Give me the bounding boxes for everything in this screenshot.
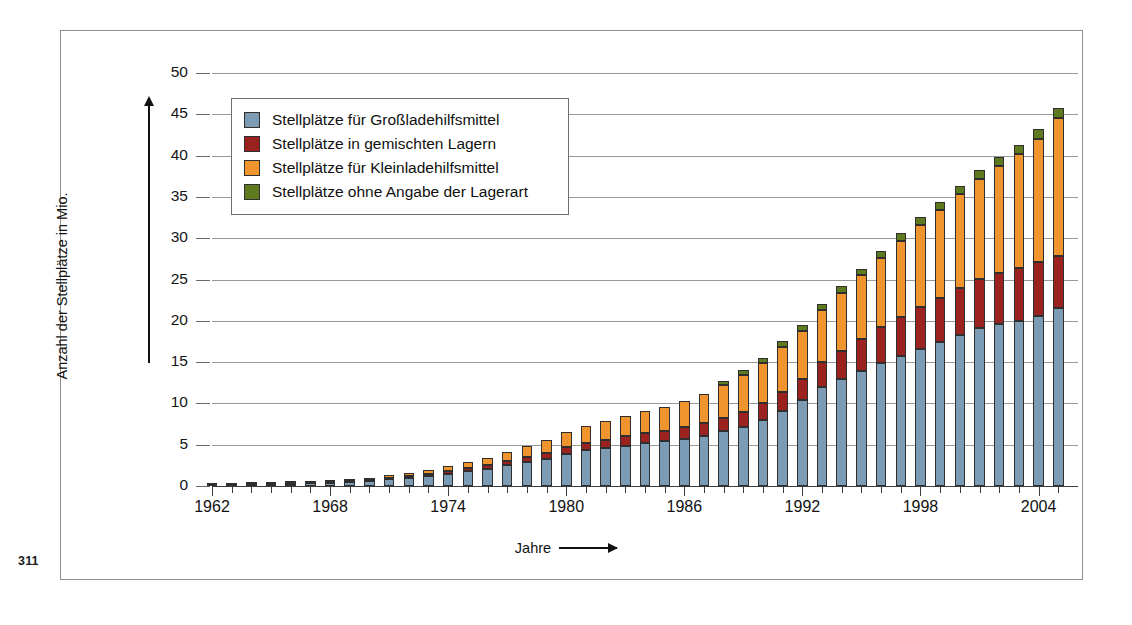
bar-1978[interactable] (522, 446, 533, 486)
bar-1980[interactable] (561, 431, 572, 486)
x-tick-mark (547, 486, 548, 493)
bar-1983[interactable] (620, 416, 631, 486)
bar-2002[interactable] (994, 157, 1005, 486)
bar-segment (541, 440, 552, 453)
x-tick-label: 1980 (531, 498, 601, 516)
bar-1989[interactable] (738, 370, 749, 486)
bar-segment (974, 179, 985, 279)
x-tick-mark (625, 486, 626, 493)
bar-1982[interactable] (600, 421, 611, 486)
bar-1972[interactable] (404, 473, 415, 486)
legend-item[interactable]: Stellplätze für Kleinladehilfsmittel (244, 156, 556, 180)
x-tick-label: 1992 (767, 498, 837, 516)
bar-segment (1053, 118, 1064, 255)
x-tick-mark (822, 486, 823, 493)
bar-segment (443, 474, 454, 486)
legend-item[interactable]: Stellplätze ohne Angabe der Lagerart (244, 180, 556, 204)
bar-segment (246, 482, 257, 484)
bar-segment (777, 347, 788, 392)
bar-1993[interactable] (817, 304, 828, 486)
bar-segment (679, 439, 690, 486)
y-tick-label: 50 (154, 63, 188, 81)
bar-1985[interactable] (659, 407, 670, 486)
bar-segment (1033, 129, 1044, 139)
bar-segment (404, 478, 415, 486)
bar-segment (935, 210, 946, 298)
bar-1975[interactable] (463, 462, 474, 486)
bar-segment (876, 363, 887, 486)
bar-segment (463, 471, 474, 486)
bar-2000[interactable] (955, 186, 966, 486)
bar-segment (797, 331, 808, 379)
bar-1977[interactable] (502, 452, 513, 486)
bar-1991[interactable] (777, 341, 788, 486)
legend-swatch-icon (244, 184, 260, 200)
bar-segment (738, 370, 749, 375)
bar-1987[interactable] (699, 394, 710, 487)
bar-1992[interactable] (797, 325, 808, 486)
x-tick-mark (901, 486, 902, 493)
bar-segment (541, 459, 552, 486)
bar-segment (620, 416, 631, 437)
y-tick-mark (196, 73, 210, 74)
y-tick-label: 5 (154, 435, 188, 453)
legend-item-label: Stellplätze für Großladehilfsmittel (272, 111, 499, 129)
bar-1998[interactable] (915, 217, 926, 486)
bar-1999[interactable] (935, 202, 946, 486)
bar-1973[interactable] (423, 469, 434, 486)
bar-segment (640, 411, 651, 433)
bar-segment (974, 328, 985, 486)
bar-1996[interactable] (876, 251, 887, 486)
bar-segment (699, 394, 710, 424)
x-tick-mark (507, 486, 508, 493)
bar-1976[interactable] (482, 458, 493, 486)
y-tick-label: 10 (154, 393, 188, 411)
bar-segment (404, 473, 415, 476)
bar-segment (777, 341, 788, 347)
bar-segment (364, 478, 375, 480)
bar-segment (1014, 145, 1025, 154)
x-tick-mark (960, 486, 961, 493)
bar-segment (502, 452, 513, 461)
y-tick-label: 35 (154, 187, 188, 205)
bar-segment (482, 458, 493, 465)
bar-segment (974, 279, 985, 329)
bar-segment (659, 407, 670, 431)
bar-1997[interactable] (896, 233, 907, 486)
bar-1979[interactable] (541, 440, 552, 486)
bar-2001[interactable] (974, 170, 985, 486)
bar-2004[interactable] (1033, 129, 1044, 486)
y-tick-mark (196, 403, 210, 404)
bar-segment (935, 342, 946, 486)
bar-segment (896, 233, 907, 240)
bar-1981[interactable] (581, 426, 592, 486)
bar-1994[interactable] (836, 286, 847, 486)
bar-segment (305, 481, 316, 483)
bar-2003[interactable] (1014, 145, 1025, 486)
x-tick-mark (212, 486, 213, 496)
bar-1995[interactable] (856, 269, 867, 486)
bar-segment (423, 474, 434, 476)
x-tick-mark (566, 486, 567, 496)
legend-item[interactable]: Stellplätze in gemischten Lagern (244, 132, 556, 156)
bar-1970[interactable] (364, 479, 375, 486)
bar-1974[interactable] (443, 466, 454, 486)
bar-segment (1014, 321, 1025, 486)
bar-segment (482, 465, 493, 468)
bar-segment (758, 420, 769, 486)
x-tick-mark (389, 486, 390, 493)
bar-segment (738, 412, 749, 427)
x-tick-mark (684, 486, 685, 496)
bar-segment (384, 475, 395, 477)
bar-1984[interactable] (640, 411, 651, 486)
bar-segment (797, 379, 808, 400)
legend-item[interactable]: Stellplätze für Großladehilfsmittel (244, 108, 556, 132)
bar-1986[interactable] (679, 401, 690, 486)
bar-1988[interactable] (718, 381, 729, 486)
bar-segment (463, 468, 474, 471)
bar-1990[interactable] (758, 358, 769, 486)
x-tick-mark (1019, 486, 1020, 493)
bar-2005[interactable] (1053, 108, 1064, 486)
bar-segment (718, 385, 729, 418)
bar-1971[interactable] (384, 475, 395, 486)
